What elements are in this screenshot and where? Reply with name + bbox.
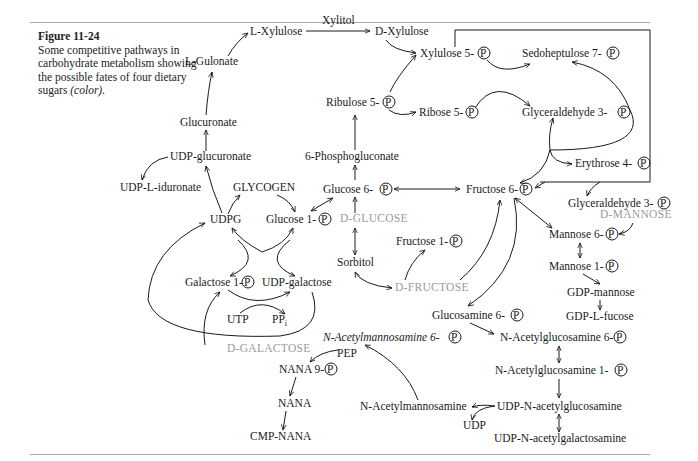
arrow-split-to-g3p	[549, 118, 553, 150]
arrow-cross-to-galactose-1p	[230, 240, 248, 276]
arrow-glucuronate-to-gulonate	[206, 72, 212, 115]
arrow-d-fructose-to-fructose-1p	[405, 250, 425, 280]
svg-text:Sedoheptulose 7-: Sedoheptulose 7-	[522, 47, 602, 60]
node-d-xylulose: D-Xylulose	[375, 25, 429, 38]
node-sorbitol: Sorbitol	[337, 256, 374, 268]
svg-text:Ribulose 5-: Ribulose 5-	[326, 96, 380, 108]
svg-text:P: P	[616, 331, 622, 343]
svg-text:P: P	[609, 47, 615, 59]
node-udpg: UDPG	[210, 213, 241, 225]
arrow-udpg-to-glycogen	[228, 195, 240, 214]
svg-text:P: P	[452, 235, 458, 247]
arrow-box-to-glyceraldehyde-right	[587, 182, 600, 196]
arrow-d-xylulose-to-xylulose-5p	[386, 40, 416, 53]
node-n-acetylmannosamine-6p: N-Acetylmannosamine 6- P	[322, 331, 461, 344]
node-udp-l-iduronate: UDP-L-iduronate	[120, 181, 201, 193]
node-fructose-1p: Fructose 1- P	[396, 235, 462, 247]
node-mannose-6p: Mannose 6- P	[549, 228, 618, 240]
svg-text:P: P	[522, 183, 528, 195]
node-ppi: PPi	[272, 313, 288, 328]
node-udp: UDP	[463, 419, 486, 431]
node-n-acetylmannosamine: N-Acetylmannosamine	[360, 400, 467, 413]
node-sedoheptulose-7p: Sedoheptulose 7- P	[522, 47, 619, 60]
node-galactose-1p: Galactose 1- P	[185, 276, 254, 288]
svg-text:N-Acetylmannosamine 6-: N-Acetylmannosamine 6-	[322, 331, 440, 344]
svg-text:P: P	[513, 309, 519, 321]
node-udp-n-acetylgalactosamine: UDP-N-acetylgalactosamine	[494, 432, 626, 445]
arrow-gal1p-to-udpgal-utp	[228, 290, 290, 301]
arrow-gulonate-to-l-xylulose	[228, 33, 248, 56]
arrow-cross-to-udp-galactose	[277, 240, 295, 276]
svg-text:N-Acetylglucosamine 1-: N-Acetylglucosamine 1-	[495, 364, 609, 377]
node-nana-9p: NANA 9- P	[279, 363, 337, 375]
arrow-d-fructose-to-f6p	[460, 200, 500, 280]
node-xylitol: Xylitol	[322, 14, 355, 27]
svg-text:P: P	[327, 363, 333, 375]
svg-text:P: P	[480, 47, 486, 59]
arrow-glycogen-to-g1p	[277, 195, 295, 212]
svg-text:Fructose 6-: Fructose 6-	[466, 183, 518, 195]
arrow-nana9p-to-nana	[290, 377, 296, 396]
sugar-d-galactose: D-GALACTOSE	[227, 342, 311, 354]
node-glucosamine-6p: Glucosamine 6- P	[432, 309, 523, 321]
svg-text:P: P	[608, 228, 614, 240]
arrow-ribulose-to-xylulose-5p	[390, 55, 416, 92]
arrow-f6p-mannose-6p	[515, 198, 552, 228]
node-glucose-1p: Glucose 1- P	[266, 213, 331, 225]
node-utp: UTP	[227, 313, 249, 325]
arrow-d-galactose-to-gal1p	[204, 292, 220, 345]
node-mannose-1p: Mannose 1- P	[549, 260, 618, 272]
node-l-xylulose: L-Xylulose	[250, 25, 302, 38]
node-erythrose-4p: Erythrose 4- P	[575, 157, 650, 170]
sugar-d-fructose: D-FRUCTOSE	[395, 281, 469, 293]
node-nana: NANA	[278, 397, 312, 409]
arrow-uridyltransferase-to-g1p	[262, 228, 293, 252]
svg-text:Glucose 6-: Glucose 6-	[323, 183, 373, 195]
svg-text:Xylulose 5-: Xylulose 5-	[420, 47, 474, 60]
node-n-acetylglucosamine-1p: N-Acetylglucosamine 1- P	[495, 364, 627, 377]
arrow-split-to-fructose-6p	[520, 150, 550, 183]
svg-text:Ribose 5-: Ribose 5-	[419, 106, 464, 118]
arrow-transketolase-cross-1	[487, 60, 530, 69]
svg-text:P: P	[640, 157, 646, 169]
arrow-udp-glucuronate-to-iduronate	[142, 157, 168, 180]
svg-text:P: P	[620, 106, 626, 118]
arrow-ribulose-to-ribose-5p	[389, 110, 416, 115]
arrow-d-mannose-to-mannose-6p	[619, 223, 633, 234]
svg-text:P: P	[382, 183, 388, 195]
svg-text:P: P	[244, 276, 250, 288]
svg-text:P: P	[617, 364, 623, 376]
arrow-mannose-1p-to-gdp-mannose	[583, 274, 600, 284]
node-xylulose-5p: Xylulose 5- P	[420, 47, 490, 60]
svg-text:Glucose 1-: Glucose 1-	[266, 213, 316, 225]
node-glycogen: GLYCOGEN	[233, 181, 296, 193]
arrow-glucosamine-to-nacglc-6p	[470, 323, 494, 334]
node-pep: PEP	[337, 347, 357, 359]
arrow-nacman-to-nacman-6p	[365, 345, 418, 400]
svg-text:N-Acetylglucosamine 6-: N-Acetylglucosamine 6-	[500, 331, 614, 344]
node-udp-n-acetylglucosamine: UDP-N-acetylglucosamine	[497, 400, 622, 413]
sugar-d-mannose: D-MANNOSE	[600, 208, 672, 220]
arrow-nacman6p-pep-to-nana9p	[310, 350, 338, 362]
arrow-nana-to-cmp-nana	[283, 411, 286, 430]
svg-text:P: P	[321, 213, 327, 225]
node-gdp-mannose: GDP-mannose	[567, 286, 635, 298]
node-n-acetylglucosamine-6p: N-Acetylglucosamine 6- P	[500, 331, 626, 344]
svg-text:P: P	[385, 96, 391, 108]
svg-text:Galactose 1-: Galactose 1-	[185, 276, 243, 288]
svg-text:Mannose 6-: Mannose 6-	[549, 228, 604, 240]
node-glucose-6p: Glucose 6- P	[323, 183, 392, 195]
arrow-split-to-erythrose	[550, 150, 572, 164]
node-6-phosphogluconate: 6-Phosphogluconate	[305, 150, 399, 163]
sugar-d-glucose: D-GLUCOSE	[340, 212, 408, 224]
node-cmp-nana: CMP-NANA	[250, 430, 312, 442]
svg-text:Erythrose 4-: Erythrose 4-	[575, 157, 632, 170]
svg-text:Glyceraldehyde 3-: Glyceraldehyde 3-	[522, 106, 607, 119]
svg-text:Glucosamine 6-: Glucosamine 6-	[432, 309, 505, 321]
arrow-uridyltransferase-to-udpg	[232, 228, 262, 252]
node-l-gulonate: L-Gulonate	[185, 55, 238, 67]
svg-text:Mannose 1-: Mannose 1-	[549, 260, 604, 272]
arrow-f6p-to-glucosamine-6p	[468, 198, 517, 306]
svg-text:P: P	[608, 260, 614, 272]
node-glyceraldehyde-3p-top: Glyceraldehyde 3- P	[522, 106, 630, 119]
